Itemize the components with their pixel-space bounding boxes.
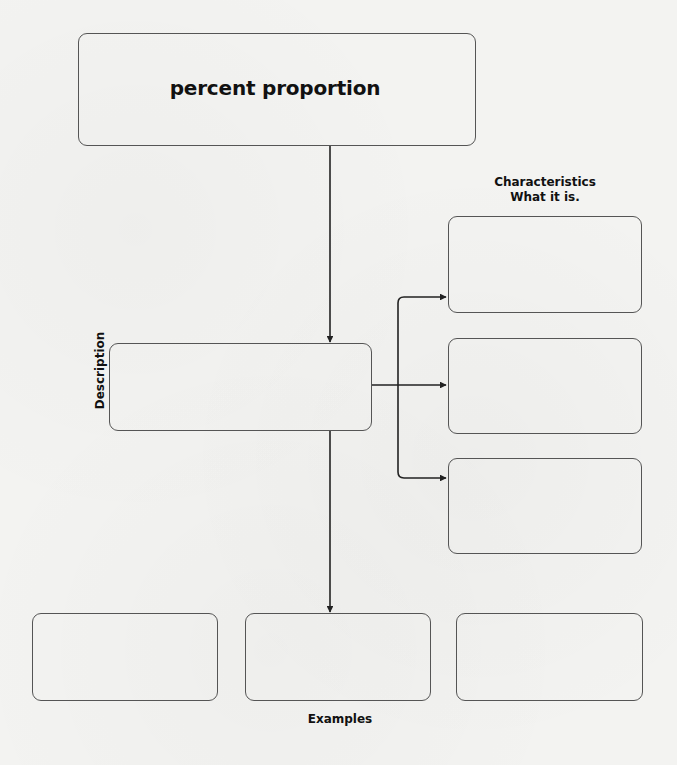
- characteristics-label-line1: Characteristics: [448, 175, 642, 190]
- title-box: percent proportion: [78, 33, 476, 146]
- characteristic-box-3[interactable]: [448, 458, 642, 554]
- characteristics-label: Characteristics What it is.: [448, 175, 642, 205]
- characteristic-box-1[interactable]: [448, 216, 642, 313]
- characteristic-box-2[interactable]: [448, 338, 642, 434]
- diagram-title: percent proportion: [170, 76, 381, 100]
- description-box[interactable]: [109, 343, 372, 431]
- characteristics-label-line2: What it is.: [448, 190, 642, 205]
- examples-label: Examples: [280, 712, 400, 727]
- example-box-3[interactable]: [456, 613, 643, 701]
- example-box-2[interactable]: [245, 613, 431, 701]
- description-label: Description: [93, 331, 108, 411]
- example-box-1[interactable]: [32, 613, 218, 701]
